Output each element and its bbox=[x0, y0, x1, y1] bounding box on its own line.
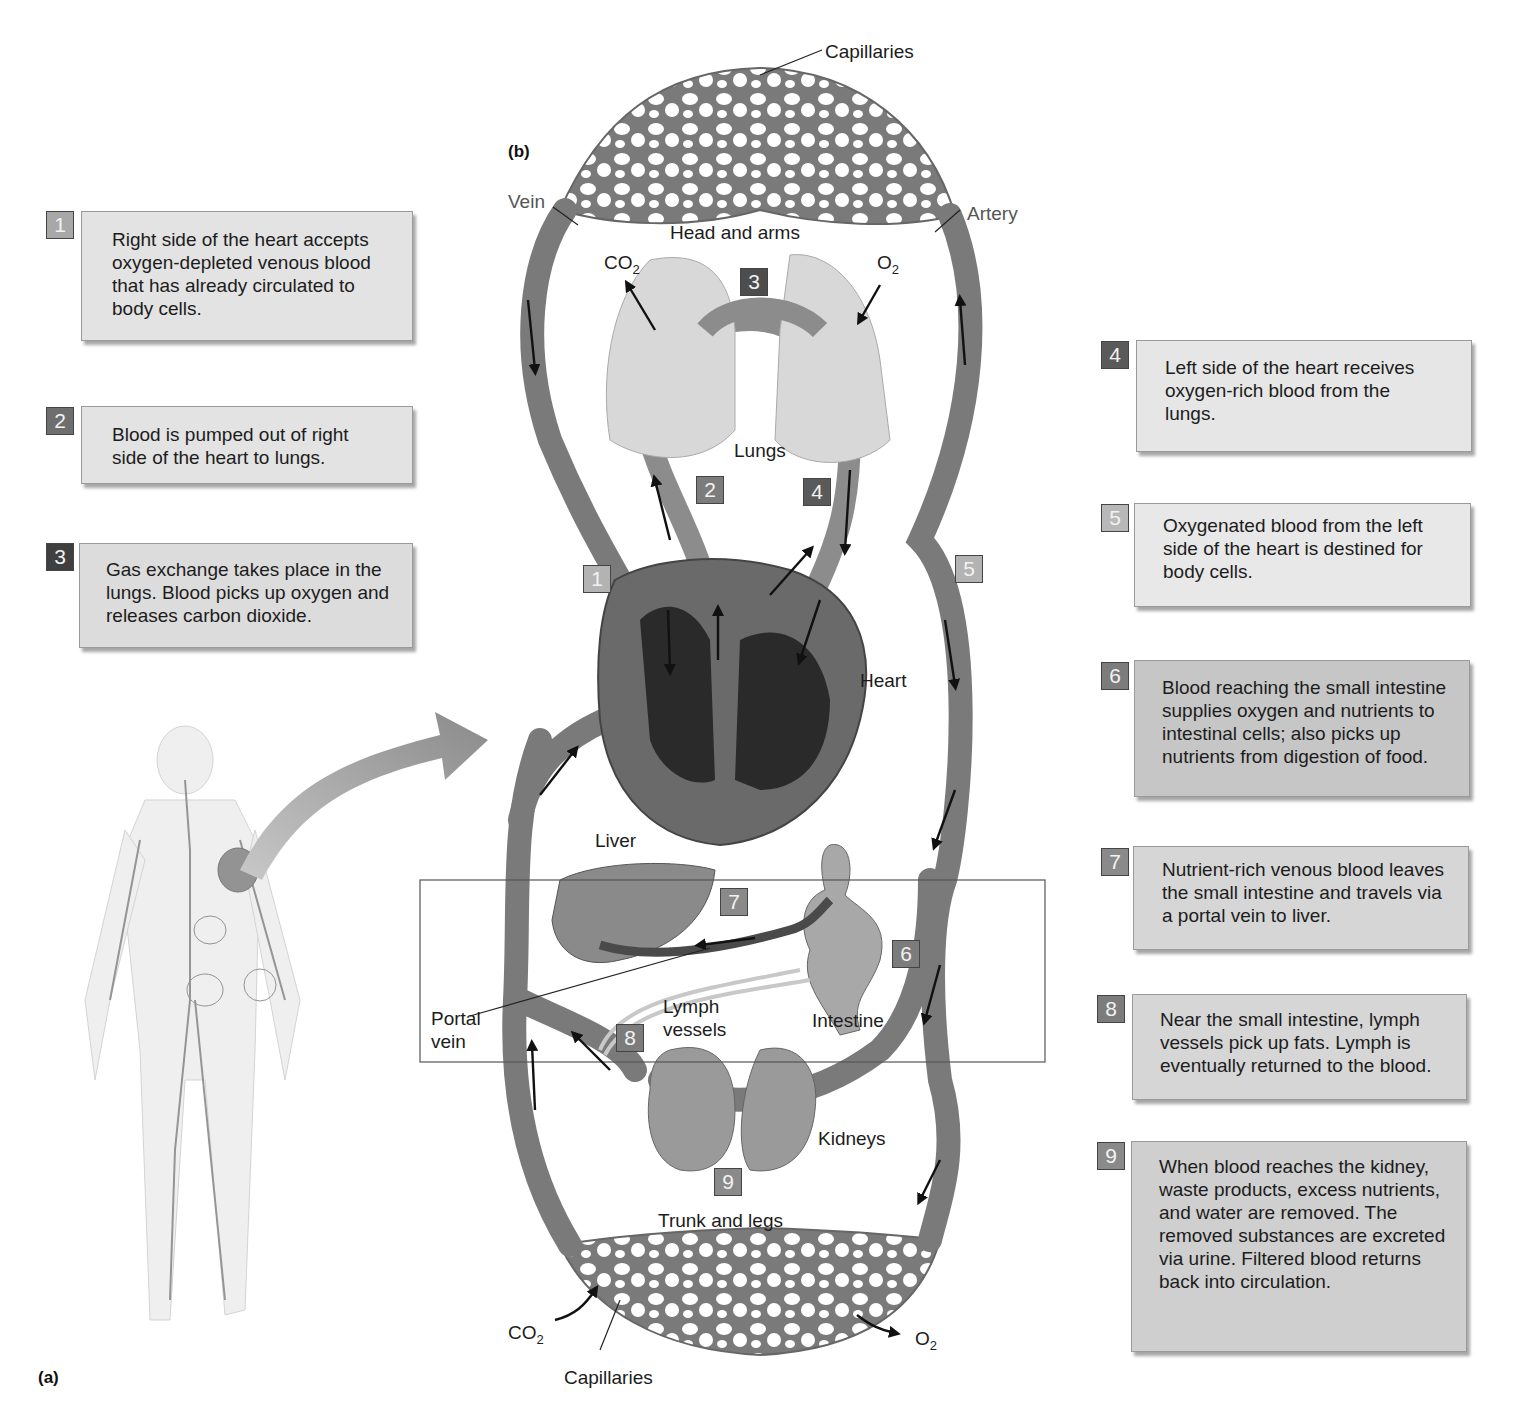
step-3-text: Gas exchange takes place in thelungs. Bl… bbox=[106, 558, 389, 627]
diagram-badge-5: 5 bbox=[955, 555, 983, 583]
step-2-text: Blood is pumped out of rightside of the … bbox=[112, 423, 349, 469]
diagram-badge-4: 4 bbox=[803, 478, 831, 506]
diagram-badge-7: 7 bbox=[720, 888, 748, 916]
bottom-capillary-bed bbox=[560, 1228, 940, 1355]
trunk-and-legs-label: Trunk and legs bbox=[658, 1210, 783, 1232]
vein-label: Vein bbox=[508, 191, 545, 213]
human-body-figure bbox=[85, 726, 300, 1320]
kidneys-label: Kidneys bbox=[818, 1128, 886, 1150]
step-8-badge: 8 bbox=[1097, 995, 1125, 1023]
artery-label: Artery bbox=[967, 203, 1018, 225]
step-8-text: Near the small intestine, lymphvessels p… bbox=[1160, 1008, 1431, 1077]
diagram-badge-1: 1 bbox=[583, 565, 611, 593]
step-2-badge: 2 bbox=[46, 407, 74, 435]
co2-top-label: CO2 bbox=[604, 252, 640, 277]
capillaries-bottom-label: Capillaries bbox=[564, 1367, 653, 1389]
step-6-badge: 6 bbox=[1101, 662, 1129, 690]
diagram-badge-2: 2 bbox=[696, 476, 724, 504]
step-9-text: When blood reaches the kidney,waste prod… bbox=[1159, 1155, 1445, 1293]
lymph-vessels-label: Lymphvessels bbox=[663, 995, 726, 1041]
step-1-badge: 1 bbox=[46, 211, 74, 239]
step-3-badge: 3 bbox=[46, 543, 74, 571]
liver-label: Liver bbox=[595, 830, 636, 852]
step-5-text: Oxygenated blood from the leftside of th… bbox=[1163, 514, 1423, 583]
capillaries-top-label: Capillaries bbox=[825, 41, 914, 63]
intestine bbox=[804, 844, 882, 1035]
diagram-badge-9: 9 bbox=[714, 1168, 742, 1196]
o2-top-label: O2 bbox=[877, 252, 899, 277]
right-lung bbox=[775, 255, 890, 463]
zoom-arrow bbox=[240, 712, 488, 880]
panel-a-label: (a) bbox=[38, 1368, 59, 1388]
right-kidney bbox=[741, 1048, 815, 1171]
diagram-badge-8: 8 bbox=[616, 1024, 644, 1052]
diagram-badge-6: 6 bbox=[892, 940, 920, 968]
portal-vein-label: Portalvein bbox=[431, 1007, 481, 1053]
step-7-badge: 7 bbox=[1101, 848, 1129, 876]
left-lung bbox=[606, 258, 735, 458]
step-4-text: Left side of the heart receivesoxygen-ri… bbox=[1165, 356, 1414, 425]
step-6-text: Blood reaching the small intestinesuppli… bbox=[1162, 676, 1446, 768]
co2-bottom-label: CO2 bbox=[508, 1322, 544, 1347]
o2-bottom-label: O2 bbox=[915, 1328, 937, 1353]
top-capillary-bed bbox=[560, 68, 955, 224]
left-kidney bbox=[648, 1048, 735, 1171]
step-9-badge: 9 bbox=[1097, 1142, 1125, 1170]
diagram-badge-3: 3 bbox=[740, 268, 768, 296]
head-and-arms-label: Head and arms bbox=[670, 222, 800, 244]
intestine-label: Intestine bbox=[812, 1010, 884, 1032]
lungs-label: Lungs bbox=[734, 440, 786, 462]
step-5-badge: 5 bbox=[1101, 504, 1129, 532]
step-7-text: Nutrient-rich venous blood leavesthe sma… bbox=[1162, 858, 1444, 927]
step-4-badge: 4 bbox=[1101, 341, 1129, 369]
step-1-text: Right side of the heart acceptsoxygen-de… bbox=[112, 228, 371, 320]
heart-label: Heart bbox=[860, 670, 906, 692]
panel-b-label: (b) bbox=[508, 142, 530, 162]
